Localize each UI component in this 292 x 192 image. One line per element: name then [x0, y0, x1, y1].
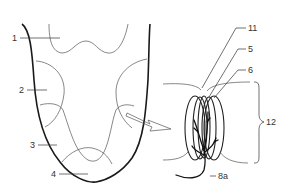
leader-5 [209, 49, 246, 97]
label-6: 6 [248, 65, 253, 75]
base-right [220, 152, 248, 163]
label-4: 4 [51, 169, 56, 179]
taste-bud: 11 5 6 12 8a [163, 23, 276, 181]
label-11: 11 [248, 23, 257, 33]
label-1: 1 [12, 33, 17, 43]
tongue: 1 2 3 4 [12, 24, 150, 182]
magnify-arrow-icon [126, 113, 171, 131]
leader-6 [214, 70, 246, 98]
zone-4-boundary [62, 148, 112, 164]
zone-2-left-boundary [36, 61, 64, 127]
leader-11 [202, 28, 246, 88]
base-left [163, 152, 188, 160]
label-12: 12 [266, 117, 276, 127]
zone-2-right-boundary [116, 59, 147, 128]
label-8a: 8a [218, 171, 228, 181]
tongue-taste-diagram: 1 2 3 4 11 [0, 0, 292, 192]
label-2: 2 [19, 85, 24, 95]
label-5: 5 [248, 44, 253, 54]
zone-1-boundary [49, 24, 128, 53]
brace-12 [254, 82, 264, 163]
epithelium-left [163, 84, 201, 90]
label-3: 3 [30, 140, 35, 150]
